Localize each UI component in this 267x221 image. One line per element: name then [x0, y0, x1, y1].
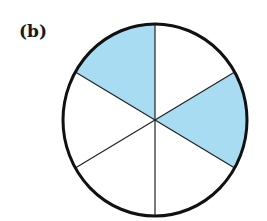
shaded-sector-right	[155, 72, 247, 168]
divided-circle-diagram	[0, 0, 267, 221]
shaded-sector-top-left	[75, 24, 155, 120]
